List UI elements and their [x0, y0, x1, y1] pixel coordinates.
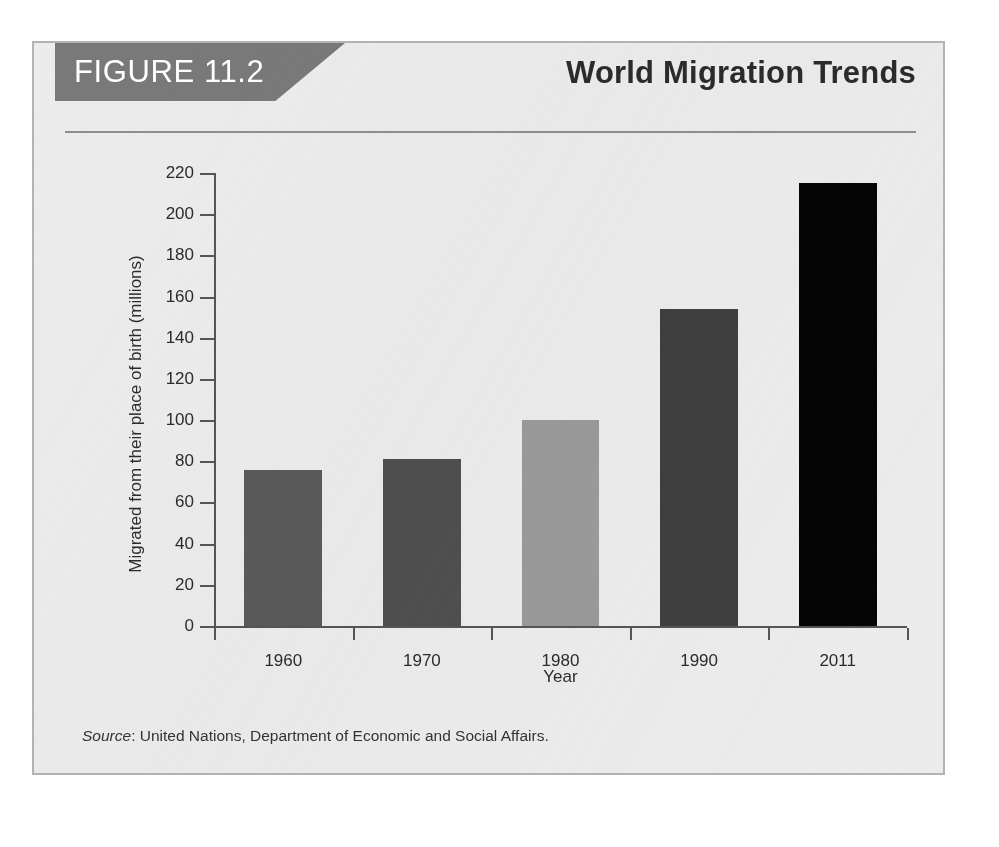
plot-area: Migrated from their place of birth (mill… [34, 139, 943, 699]
y-axis-tick [200, 214, 214, 216]
chart-title: World Migration Trends [566, 55, 916, 91]
y-axis-tick-label: 80 [175, 451, 194, 471]
bar [799, 183, 877, 626]
y-axis-tick-label: 100 [166, 410, 194, 430]
chart-axes: 020406080100120140160180200220 196019701… [214, 173, 914, 628]
y-axis-tick [200, 626, 214, 628]
y-axis-tick-label: 120 [166, 369, 194, 389]
bar [522, 420, 600, 626]
source-text: : United Nations, Department of Economic… [131, 727, 549, 744]
bar [244, 470, 322, 626]
y-axis-tick-label: 160 [166, 287, 194, 307]
x-axis-tick [353, 628, 355, 640]
y-axis-tick [200, 297, 214, 299]
x-axis-tick [491, 628, 493, 640]
y-axis-tick-label: 220 [166, 163, 194, 183]
x-axis-line [214, 626, 907, 628]
x-axis-tick [907, 628, 909, 640]
bar [660, 309, 738, 626]
header-divider [65, 131, 916, 133]
figure-panel: FIGURE 11.2 World Migration Trends Migra… [32, 41, 945, 775]
y-axis-tick [200, 338, 214, 340]
y-axis-line [214, 173, 216, 628]
x-axis-tick [630, 628, 632, 640]
bar [383, 459, 461, 626]
figure-label-banner: FIGURE 11.2 [55, 43, 345, 101]
y-axis-tick [200, 420, 214, 422]
y-axis-tick [200, 502, 214, 504]
y-axis-tick-label: 200 [166, 204, 194, 224]
y-axis-tick [200, 461, 214, 463]
x-axis-title: Year [214, 667, 907, 687]
y-axis-tick [200, 173, 214, 175]
source-note: Source: United Nations, Department of Ec… [82, 727, 549, 745]
y-axis-tick-label: 180 [166, 245, 194, 265]
y-axis-tick [200, 379, 214, 381]
y-axis-tick [200, 585, 214, 587]
y-axis-tick-label: 60 [175, 492, 194, 512]
y-axis-tick [200, 255, 214, 257]
source-word: Source [82, 727, 131, 744]
y-axis-tick-label: 20 [175, 575, 194, 595]
x-axis-tick [768, 628, 770, 640]
y-axis-tick-label: 0 [185, 616, 194, 636]
y-axis-tick-label: 40 [175, 534, 194, 554]
y-axis-title: Migrated from their place of birth (mill… [126, 249, 146, 579]
y-axis-tick [200, 544, 214, 546]
figure-number-label: FIGURE 11.2 [55, 54, 264, 90]
x-axis-tick [214, 628, 216, 640]
y-axis-tick-label: 140 [166, 328, 194, 348]
